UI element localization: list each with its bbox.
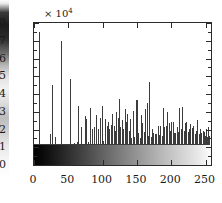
y-tick-label: 8 xyxy=(0,17,6,28)
histogram-bar xyxy=(209,136,210,145)
y-minor-tick xyxy=(208,156,211,157)
grayscale-colorbar xyxy=(34,145,211,165)
y-minor-tick xyxy=(34,50,37,51)
y-tick xyxy=(34,165,39,166)
histogram-bar xyxy=(102,106,103,145)
y-tick xyxy=(206,147,211,148)
plot-area xyxy=(33,22,212,166)
y-axis-multiplier-exponent: 4 xyxy=(68,7,72,15)
y-axis-multiplier-label: × 104 xyxy=(44,6,73,19)
y-minor-tick xyxy=(34,138,37,139)
y-minor-tick xyxy=(34,103,37,104)
y-tick xyxy=(206,23,211,24)
x-tick xyxy=(206,23,207,28)
histogram-bar xyxy=(90,108,91,145)
y-minor-tick xyxy=(208,85,211,86)
histogram-bar xyxy=(81,127,82,145)
x-tick xyxy=(103,160,104,165)
y-minor-tick xyxy=(34,67,37,68)
histogram-bar xyxy=(52,85,53,145)
y-tick xyxy=(206,112,211,113)
histogram-bar xyxy=(149,82,150,145)
histogram-bar xyxy=(100,118,101,145)
y-tick xyxy=(34,94,39,95)
y-minor-tick xyxy=(208,138,211,139)
x-tick xyxy=(68,23,69,28)
y-minor-tick xyxy=(208,103,211,104)
y-tick xyxy=(34,112,39,113)
y-minor-tick xyxy=(208,32,211,33)
y-tick xyxy=(206,94,211,95)
histogram-bar xyxy=(86,119,87,145)
y-tick-label: 6 xyxy=(0,53,6,64)
histogram-figure: × 104 012345678050100150200250 xyxy=(0,0,222,203)
y-axis-multiplier-text: × 10 xyxy=(44,8,68,19)
y-minor-tick xyxy=(208,50,211,51)
x-tick xyxy=(103,23,104,28)
x-tick xyxy=(206,160,207,165)
y-tick xyxy=(34,147,39,148)
x-tick xyxy=(34,23,35,28)
y-minor-tick xyxy=(208,121,211,122)
y-tick-label: 3 xyxy=(0,106,6,117)
plot-inner xyxy=(34,23,211,165)
histogram-bar xyxy=(61,41,62,145)
y-minor-tick xyxy=(34,121,37,122)
x-tick xyxy=(68,160,69,165)
y-tick-label: 2 xyxy=(0,124,6,135)
histogram-bar xyxy=(96,115,97,145)
x-tick xyxy=(171,23,172,28)
histogram-bar xyxy=(39,32,40,145)
y-tick-label: 7 xyxy=(0,35,6,46)
y-tick-label: 0 xyxy=(0,159,6,170)
y-tick xyxy=(34,130,39,131)
histogram-bar xyxy=(94,127,95,145)
histogram-bar xyxy=(92,129,93,145)
y-tick xyxy=(206,165,211,166)
y-tick xyxy=(206,41,211,42)
histogram-bars xyxy=(34,23,211,145)
y-tick xyxy=(206,59,211,60)
y-minor-tick xyxy=(34,85,37,86)
y-tick xyxy=(206,130,211,131)
y-tick xyxy=(34,41,39,42)
x-tick xyxy=(34,160,35,165)
y-tick xyxy=(34,59,39,60)
y-minor-tick xyxy=(208,67,211,68)
x-tick xyxy=(171,160,172,165)
y-minor-tick xyxy=(34,156,37,157)
y-minor-tick xyxy=(34,32,37,33)
x-tick xyxy=(137,160,138,165)
y-tick xyxy=(34,76,39,77)
y-tick-label: 4 xyxy=(0,88,6,99)
histogram-bar xyxy=(78,106,79,145)
x-tick xyxy=(137,23,138,28)
x-tick-label: 250 xyxy=(185,174,222,185)
y-tick xyxy=(206,76,211,77)
y-tick-label: 5 xyxy=(0,70,6,81)
histogram-bar xyxy=(70,79,71,145)
histogram-bar xyxy=(98,129,99,145)
y-tick-label: 1 xyxy=(0,141,6,152)
